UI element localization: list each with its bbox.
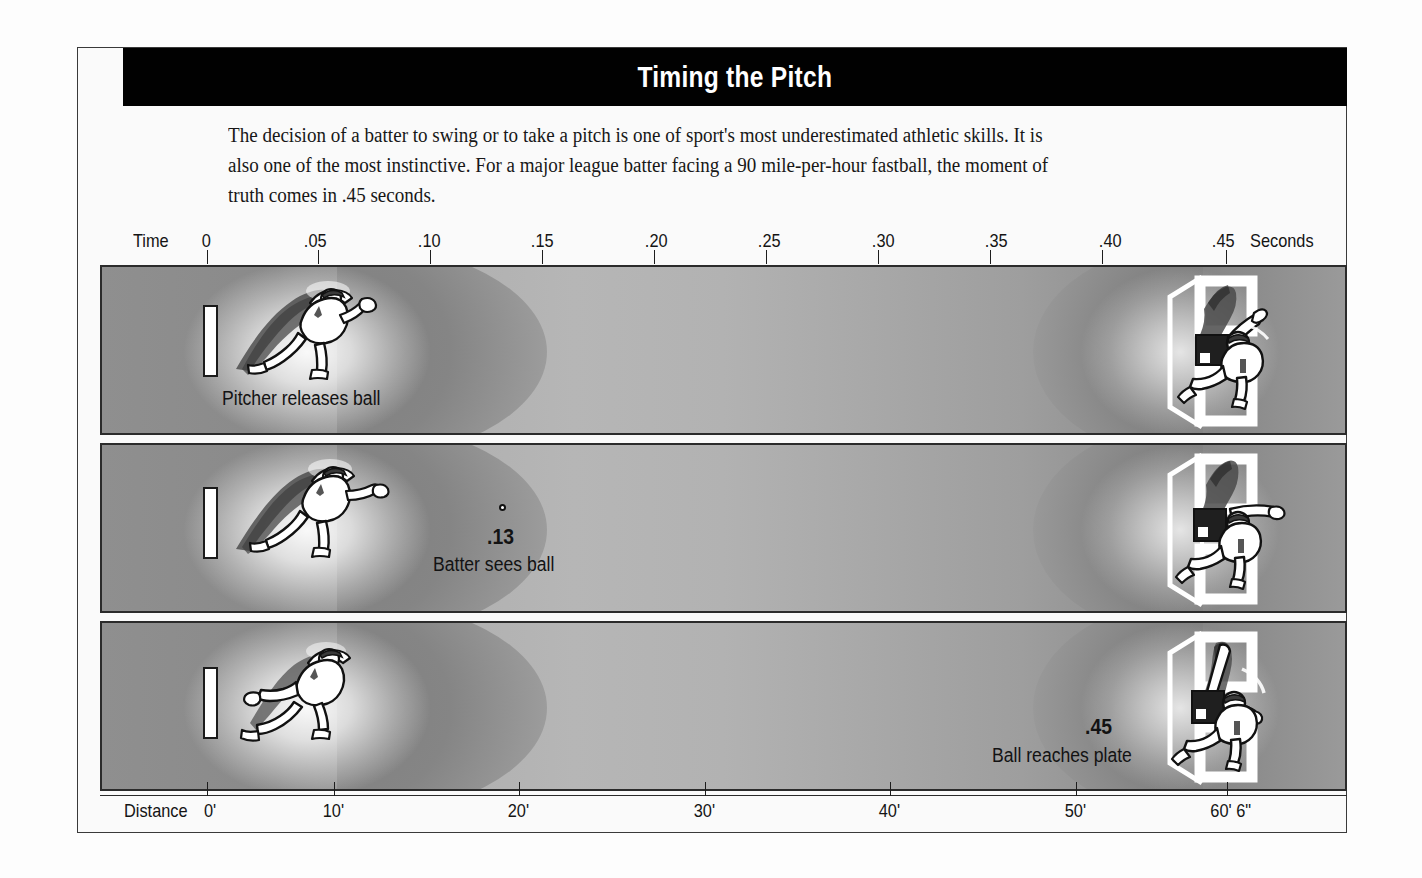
panel-1-event-label: Pitcher releases ball: [222, 387, 380, 410]
pitcher-figure-icon: [206, 635, 396, 765]
title-bar: Timing the Pitch: [123, 48, 1347, 106]
infographic-page: Timing the Pitch The decision of a batte…: [0, 0, 1422, 878]
pitcher-figure-icon: [206, 455, 396, 585]
panel-3-event-time: .45: [1085, 714, 1112, 740]
timeline-panel-1: Pitcher releases ball: [100, 265, 1347, 435]
baseball-marker: [499, 504, 506, 511]
timeline-panel-3: .45 Ball reaches plate: [100, 621, 1347, 791]
batter-figure-icon: [1142, 625, 1342, 791]
intro-line-2: also one of the most instinctive. For a …: [228, 150, 1260, 180]
panel-2-event-time: .13: [487, 524, 514, 550]
page-title: Timing the Pitch: [638, 60, 833, 94]
pitcher-figure-icon: [206, 273, 396, 403]
panel-2-event-label: Batter sees ball: [433, 553, 554, 576]
intro-line-3: truth comes in .45 seconds.: [228, 180, 1260, 210]
batter-figure-icon: [1142, 447, 1342, 613]
timeline-panel-2: .13 Batter sees ball: [100, 443, 1347, 613]
panel-3-event-label: Ball reaches plate: [992, 744, 1132, 767]
intro-paragraph: The decision of a batter to swing or to …: [228, 120, 1338, 210]
batter-figure-icon: [1142, 269, 1342, 435]
intro-line-1: The decision of a batter to swing or to …: [228, 120, 1260, 150]
